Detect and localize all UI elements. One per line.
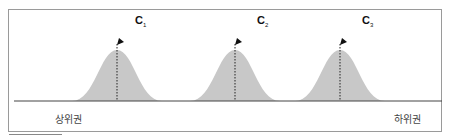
decorative-underline: [9, 134, 62, 135]
flag-icon-c1: [117, 38, 124, 45]
peak-label-c3: C3: [362, 14, 373, 28]
flag-icon-c3: [340, 38, 347, 45]
axis-right-label: 하위권: [394, 111, 421, 126]
axis-left-label: 상위권: [55, 111, 82, 126]
flag-icon-c2: [235, 38, 242, 45]
peak-label-c2: C2: [257, 14, 268, 28]
peak-label-c1: C1: [135, 14, 146, 28]
